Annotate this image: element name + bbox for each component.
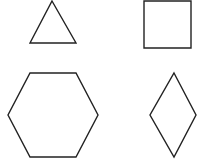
triangle-shape [30,1,76,43]
hexagon-shape [8,73,98,157]
shapes-canvas [0,0,210,165]
diamond-shape [150,73,196,157]
square-shape [144,1,191,48]
